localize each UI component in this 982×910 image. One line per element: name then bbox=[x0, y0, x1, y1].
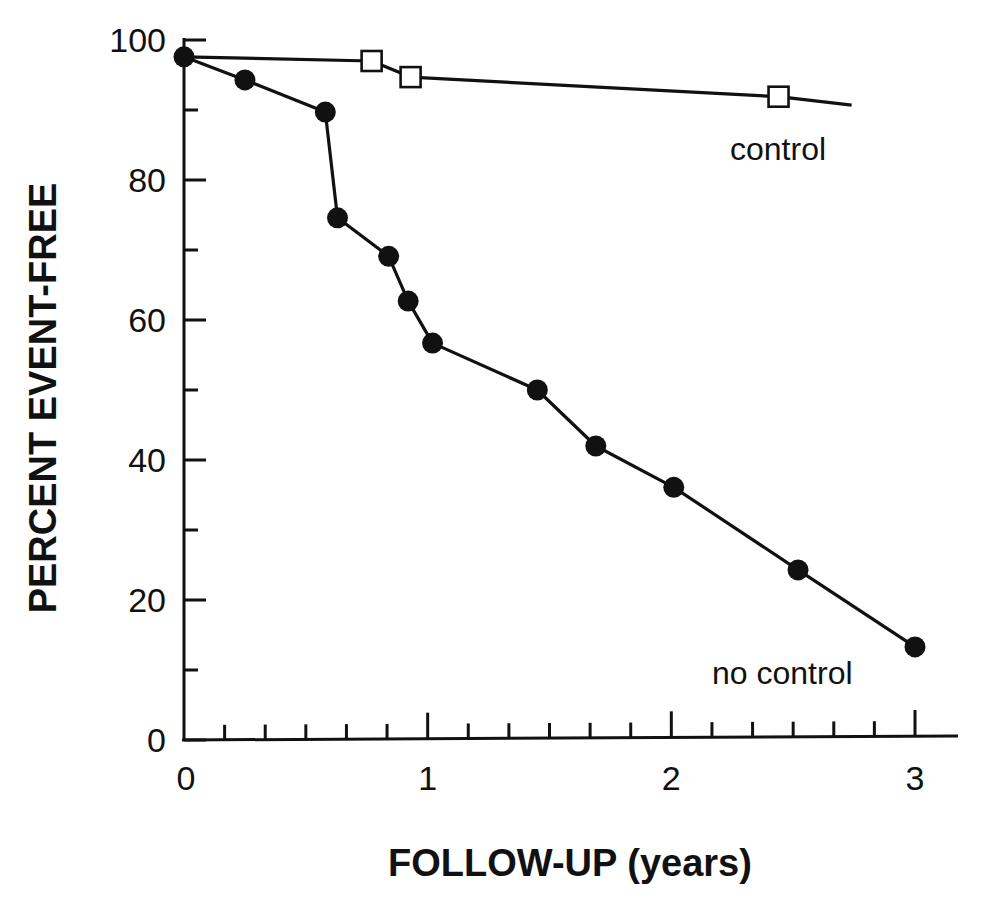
y-tick-labels: 020406080100 bbox=[109, 21, 166, 759]
x-axis-line bbox=[182, 736, 958, 740]
control-line bbox=[184, 57, 852, 105]
no-control-marker bbox=[788, 559, 809, 580]
no-control-marker bbox=[174, 46, 195, 67]
no-control-marker bbox=[234, 69, 255, 90]
x-tick-label: 2 bbox=[662, 759, 681, 797]
x-tick-labels: 0123 bbox=[177, 759, 925, 797]
no-control-marker bbox=[378, 246, 399, 267]
x-axis-title: FOLLOW-UP (years) bbox=[388, 842, 752, 884]
x-tick-label: 3 bbox=[906, 759, 925, 797]
y-tick-label: 100 bbox=[109, 21, 166, 59]
axes bbox=[182, 38, 958, 740]
x-tick-label: 0 bbox=[177, 759, 196, 797]
y-tick-label: 60 bbox=[128, 301, 166, 339]
control-marker bbox=[401, 67, 421, 87]
no-control-series-label: no control bbox=[712, 655, 853, 691]
control-marker bbox=[362, 51, 382, 71]
y-tick-label: 40 bbox=[128, 441, 166, 479]
no-control-marker bbox=[663, 477, 684, 498]
survival-chart: 020406080100 0123 control no control FOL… bbox=[0, 0, 982, 910]
x-tick-label: 1 bbox=[418, 759, 437, 797]
control-series-label: control bbox=[730, 131, 826, 167]
y-tick-label: 80 bbox=[128, 161, 166, 199]
no-control-marker bbox=[327, 207, 348, 228]
y-axis-title: PERCENT EVENT-FREE bbox=[22, 183, 64, 614]
y-tick-label: 0 bbox=[147, 721, 166, 759]
no-control-marker bbox=[585, 436, 606, 457]
no-control-marker bbox=[422, 333, 443, 354]
y-tick-label: 20 bbox=[128, 581, 166, 619]
control-marker bbox=[769, 87, 789, 107]
no-control-marker bbox=[905, 636, 926, 657]
no-control-marker bbox=[315, 102, 336, 123]
no-control-marker bbox=[398, 291, 419, 312]
no-control-marker bbox=[527, 380, 548, 401]
